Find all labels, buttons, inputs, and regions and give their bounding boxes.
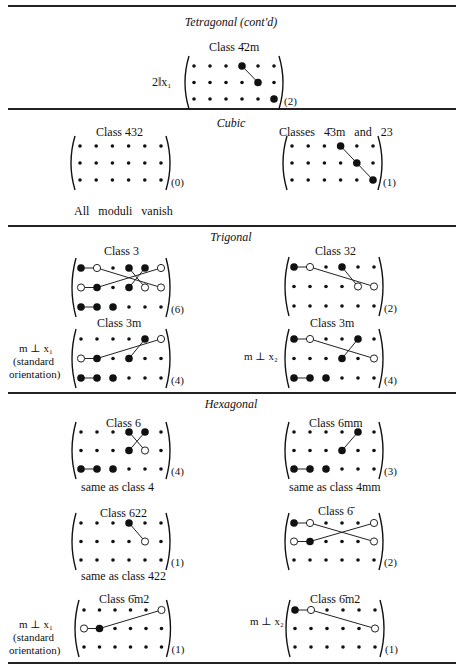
large-dot (254, 79, 262, 87)
right-paren (167, 600, 171, 657)
large-dot (338, 447, 346, 455)
small-dot (159, 540, 163, 544)
small-dot (339, 178, 343, 182)
small-dot (98, 645, 102, 649)
large-dot (141, 335, 149, 343)
small-dot (323, 178, 327, 182)
large-dot (141, 264, 149, 272)
open-dot (77, 284, 84, 291)
small-dot (111, 144, 115, 148)
small-dot (94, 178, 98, 182)
left-paren (72, 513, 76, 570)
small-dot (324, 521, 328, 525)
left-paren (285, 513, 289, 570)
small-dot (95, 521, 99, 525)
small-dot (111, 286, 115, 290)
small-dot (159, 467, 163, 471)
small-dot (341, 645, 345, 649)
small-dot (240, 97, 244, 101)
small-dot (372, 430, 376, 434)
small-dot (159, 376, 163, 380)
small-dot (82, 608, 86, 612)
small-dot (306, 161, 310, 165)
small-dot (159, 521, 163, 525)
right-paren (379, 329, 383, 388)
small-dot (111, 266, 115, 270)
open-dot (370, 538, 377, 545)
matrix-tr32: (2) (285, 257, 397, 316)
left-paren (285, 422, 289, 479)
left-paren (72, 258, 76, 317)
left-paren (72, 329, 76, 388)
small-dot (357, 608, 361, 612)
small-dot (341, 627, 345, 631)
small-dot (324, 540, 328, 544)
small-dot (111, 161, 115, 165)
small-dot (272, 81, 276, 85)
small-dot (79, 430, 83, 434)
small-dot (293, 645, 297, 649)
small-dot (356, 467, 360, 471)
independent-count: (1) (385, 643, 398, 656)
large-dot (322, 374, 330, 382)
open-dot (157, 264, 164, 271)
large-dot (77, 303, 85, 311)
independent-count: (2) (284, 95, 297, 108)
small-dot (127, 337, 131, 341)
small-dot (111, 558, 115, 562)
small-dot (309, 645, 313, 649)
matrix-h6mm: (3) (285, 422, 397, 479)
large-dot (306, 374, 314, 382)
matrix-c43m: (1) (283, 136, 396, 190)
left-paren (75, 600, 79, 657)
small-dot (325, 608, 329, 612)
left-paren (71, 136, 75, 190)
small-dot (111, 521, 115, 525)
small-dot (159, 161, 163, 165)
small-dot (208, 81, 212, 85)
small-dot (159, 449, 163, 453)
open-dot (306, 519, 313, 526)
large-dot (369, 176, 377, 184)
open-dot (141, 538, 148, 545)
small-dot (98, 608, 102, 612)
small-dot (95, 540, 99, 544)
small-dot (306, 144, 310, 148)
small-dot (127, 376, 131, 380)
small-dot (292, 449, 296, 453)
matrix-h6m2_x2: (1) (286, 600, 398, 657)
open-dot (158, 606, 165, 613)
independent-count: (3) (384, 465, 397, 478)
small-dot (306, 178, 310, 182)
right-paren (166, 513, 170, 570)
small-dot (240, 81, 244, 85)
matrix-tr3m_x2: (4) (285, 329, 397, 388)
small-dot (224, 64, 228, 68)
small-dot (292, 357, 296, 361)
small-dot (340, 558, 344, 562)
large-dot (96, 625, 104, 633)
left-paren (185, 56, 189, 109)
small-dot (208, 64, 212, 68)
small-dot (323, 161, 327, 165)
small-dot (143, 558, 147, 562)
open-dot (80, 625, 87, 632)
small-dot (371, 161, 375, 165)
small-dot (160, 627, 164, 631)
small-dot (256, 64, 260, 68)
matrix-tr3: (6) (72, 258, 184, 317)
left-paren (285, 329, 289, 388)
large-dot (77, 465, 85, 473)
open-dot (307, 606, 314, 613)
matrix-h6: (4) (72, 422, 184, 479)
small-dot (308, 558, 312, 562)
right-paren (379, 422, 383, 479)
independent-count: (4) (171, 465, 184, 478)
small-dot (372, 304, 376, 308)
small-dot (79, 558, 83, 562)
small-dot (292, 430, 296, 434)
right-paren (380, 600, 384, 657)
small-dot (339, 161, 343, 165)
relation-line (311, 610, 375, 629)
small-dot (290, 178, 294, 182)
